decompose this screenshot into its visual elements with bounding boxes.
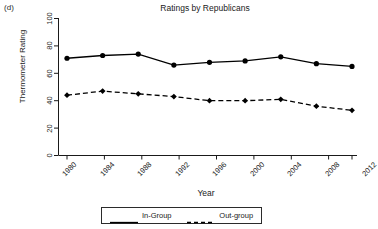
data-point: [171, 94, 177, 100]
data-point: [100, 88, 106, 94]
data-point: [135, 91, 141, 97]
data-point: [349, 107, 355, 113]
data-point: [64, 56, 69, 61]
legend: In-Group Out-group: [101, 207, 262, 224]
data-point: [207, 98, 213, 104]
data-point: [242, 98, 248, 104]
data-point: [349, 64, 354, 69]
x-tick-marks: [67, 156, 352, 160]
data-point: [207, 60, 212, 65]
data-point: [136, 52, 141, 57]
data-point: [243, 58, 248, 63]
series-markers-in-group: [64, 52, 354, 70]
legend-line-sample-dashed: [187, 212, 215, 219]
legend-entry-in-group: In-Group: [110, 211, 172, 220]
legend-label-in-group: In-Group: [142, 211, 172, 220]
data-point: [278, 96, 284, 102]
data-point: [278, 54, 283, 59]
data-point: [171, 62, 176, 67]
data-point: [100, 53, 105, 58]
legend-label-out-group: Out-group: [219, 211, 253, 220]
legend-entry-out-group: Out-group: [187, 211, 253, 220]
data-point: [314, 61, 319, 66]
y-tick-marks: [54, 19, 59, 156]
data-point: [64, 92, 70, 98]
legend-line-sample-solid: [110, 212, 138, 219]
data-point: [313, 103, 319, 109]
